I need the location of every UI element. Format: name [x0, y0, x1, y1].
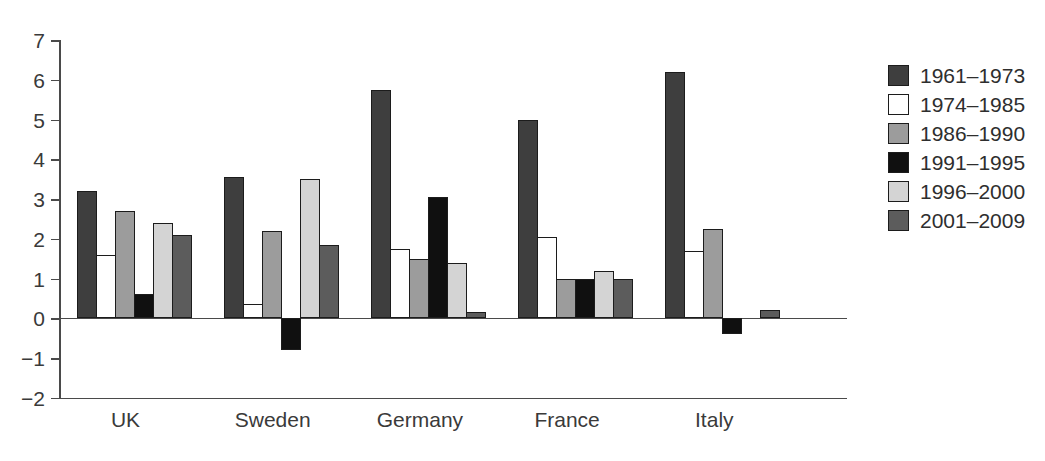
y-tick	[51, 159, 59, 161]
legend-item-1991-1995: 1991–1995	[888, 148, 1025, 177]
bar-sweden-2001-2009	[319, 245, 339, 319]
category-label-italy: Italy	[644, 409, 784, 430]
legend-item-1974-1985: 1974–1985	[888, 90, 1025, 119]
y-tick	[51, 318, 59, 320]
y-tick	[51, 358, 59, 360]
legend-label: 2001–2009	[920, 210, 1025, 231]
y-tick	[51, 239, 59, 241]
bar-france-1974-1985	[537, 237, 557, 318]
bar-italy-1986-1990	[703, 229, 723, 318]
bar-italy-1974-1985	[684, 251, 704, 319]
legend-swatch-icon	[888, 65, 909, 86]
bar-uk-1961-1973	[77, 191, 97, 318]
y-tick-label: 5	[0, 110, 45, 131]
bar-uk-1991-1995	[134, 294, 154, 318]
y-tick-label: 3	[0, 189, 45, 210]
bar-sweden-1996-2000	[300, 179, 320, 318]
bar-france-1991-1995	[575, 279, 595, 319]
y-tick	[51, 120, 59, 122]
legend-swatch-icon	[888, 152, 909, 173]
bar-france-1986-1990	[556, 279, 576, 319]
y-tick-label: 7	[0, 30, 45, 51]
bar-uk-1974-1985	[96, 255, 116, 319]
legend-label: 1961–1973	[920, 65, 1025, 86]
y-tick-label: 2	[0, 229, 45, 250]
bar-uk-2001-2009	[172, 235, 192, 318]
bar-germany-1991-1995	[428, 197, 448, 318]
bar-italy-1991-1995	[722, 318, 742, 334]
legend-item-1961-1973: 1961–1973	[888, 61, 1025, 90]
bar-germany-1974-1985	[390, 249, 410, 319]
bar-france-1996-2000	[594, 271, 614, 319]
bar-chart-figure: 1961–19731974–19851986–19901991–19951996…	[0, 0, 1045, 461]
legend-swatch-icon	[888, 181, 909, 202]
y-tick	[51, 199, 59, 201]
bar-germany-2001-2009	[466, 312, 486, 318]
y-tick	[51, 80, 59, 82]
y-tick	[51, 279, 59, 281]
bar-italy-2001-2009	[760, 310, 780, 318]
y-tick-label: −2	[0, 388, 45, 409]
bar-germany-1996-2000	[447, 263, 467, 319]
bar-sweden-1986-1990	[262, 231, 282, 318]
y-tick-label: 1	[0, 269, 45, 290]
bar-sweden-1974-1985	[243, 304, 263, 318]
y-tick-label: 6	[0, 70, 45, 91]
bar-sweden-1961-1973	[224, 177, 244, 318]
category-label-uk: UK	[56, 409, 196, 430]
legend-label: 1986–1990	[920, 123, 1025, 144]
y-tick	[51, 398, 59, 400]
bar-italy-1961-1973	[665, 72, 685, 318]
legend-item-1986-1990: 1986–1990	[888, 119, 1025, 148]
legend-item-2001-2009: 2001–2009	[888, 206, 1025, 235]
y-tick	[51, 40, 59, 42]
category-label-sweden: Sweden	[203, 409, 343, 430]
legend-label: 1996–2000	[920, 181, 1025, 202]
bar-france-1961-1973	[518, 120, 538, 319]
bar-uk-1986-1990	[115, 211, 135, 318]
bar-france-2001-2009	[613, 279, 633, 319]
legend-label: 1991–1995	[920, 152, 1025, 173]
bar-uk-1996-2000	[153, 223, 173, 318]
legend: 1961–19731974–19851986–19901991–19951996…	[888, 61, 1025, 235]
bar-germany-1961-1973	[371, 90, 391, 318]
x-axis-line	[59, 398, 847, 400]
bar-sweden-1991-1995	[281, 318, 301, 350]
legend-swatch-icon	[888, 123, 909, 144]
y-tick-label: 0	[0, 308, 45, 329]
y-tick-label: 4	[0, 149, 45, 170]
y-tick-label: −1	[0, 348, 45, 369]
legend-swatch-icon	[888, 210, 909, 231]
y-axis-line	[59, 40, 61, 398]
bar-germany-1986-1990	[409, 259, 429, 319]
category-label-france: France	[497, 409, 637, 430]
legend-item-1996-2000: 1996–2000	[888, 177, 1025, 206]
category-label-germany: Germany	[350, 409, 490, 430]
legend-label: 1974–1985	[920, 94, 1025, 115]
legend-swatch-icon	[888, 94, 909, 115]
